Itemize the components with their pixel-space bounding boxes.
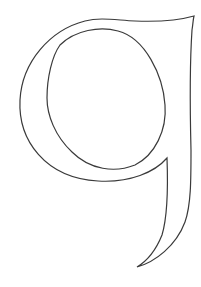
letter-q-outline (0, 0, 201, 287)
letter-q-drawing: q (0, 0, 201, 287)
inner-counter (47, 29, 165, 169)
outer-contour (20, 16, 194, 267)
